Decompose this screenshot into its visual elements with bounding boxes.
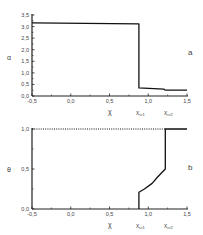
svg-text:χcr2: χcr2 xyxy=(164,222,173,230)
x-axis-label-b: χ xyxy=(108,221,112,229)
svg-text:χcr1: χcr1 xyxy=(136,109,145,117)
data-series-line xyxy=(139,129,187,209)
x-tick-label: 0,0 xyxy=(67,98,75,104)
y-tick-label: 1,5 xyxy=(21,58,29,64)
x-tick-label: 1,0 xyxy=(144,98,152,104)
y-tick-label: 1,0 xyxy=(21,126,29,132)
y-tick-label: 0,5 xyxy=(21,81,29,87)
y-tick-label: 1,0 xyxy=(21,70,29,76)
xcr2-annotation-b: χcr2 xyxy=(164,222,173,230)
x-axis-label-a: χ xyxy=(108,108,112,116)
figure: -0,50,00,51,01,50,00,51,01,52,02,53,03,5… xyxy=(0,0,203,235)
y-tick-label: 3,0 xyxy=(21,24,29,30)
panel-a-label: a xyxy=(188,48,193,57)
x-tick-label: 0,5 xyxy=(106,98,114,104)
y-tick-label: 2,0 xyxy=(21,47,29,53)
x-tick-label: 1,5 xyxy=(183,98,191,104)
svg-text:χcr1: χcr1 xyxy=(136,222,145,230)
y-tick-label: 0,0 xyxy=(21,93,29,99)
y-tick-label: 2,5 xyxy=(21,35,29,41)
panel-b-label: b xyxy=(188,163,193,172)
x-tick-label: 0,0 xyxy=(67,211,75,217)
y-tick-label: 0,0 xyxy=(21,206,29,212)
panel-b-chart: -0,50,00,51,01,50,00,51,0 xyxy=(21,126,190,217)
svg-text:χcr2: χcr2 xyxy=(164,109,173,117)
y-tick-label: 3,5 xyxy=(21,12,29,18)
xcr1-annotation-b: χcr1 xyxy=(136,222,145,230)
y-tick-label: 0,5 xyxy=(21,166,29,172)
xcr2-annotation-a: χcr2 xyxy=(164,109,173,117)
y-axis-label-a: α xyxy=(7,54,11,61)
xcr1-annotation-a: χcr1 xyxy=(136,109,145,117)
x-tick-label: 1,5 xyxy=(183,211,191,217)
x-tick-label: 0,5 xyxy=(106,211,114,217)
y-axis-label-b: θ xyxy=(7,166,11,173)
data-series-line xyxy=(32,23,187,90)
x-tick-label: 1,0 xyxy=(144,211,152,217)
panel-a-chart: -0,50,00,51,01,50,00,51,01,52,02,53,03,5 xyxy=(21,12,190,104)
